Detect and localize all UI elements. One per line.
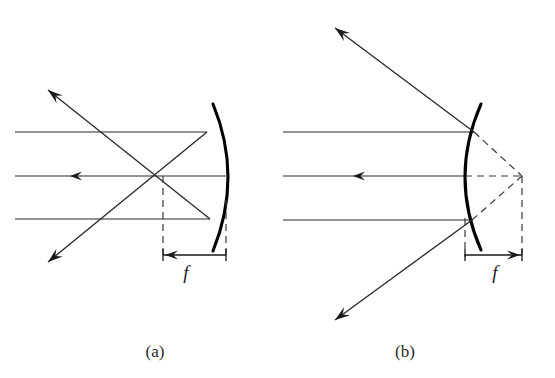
mirror-ray-diagram-svg: f(a) f(b) (0, 0, 555, 378)
panel-caption-a: (a) (146, 342, 165, 361)
figure-background (0, 0, 555, 378)
panel-caption-b: (b) (395, 342, 415, 361)
figure-root: f(a) f(b) (0, 0, 555, 378)
